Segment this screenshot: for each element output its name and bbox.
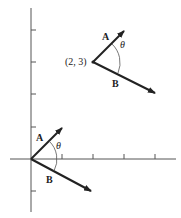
vector-a-label: A	[102, 31, 110, 42]
angle-arc	[112, 44, 120, 73]
point-marker	[91, 60, 94, 63]
vector-b-label: B	[112, 78, 119, 89]
translated-vector-pair: (2, 3) A B θ	[65, 31, 155, 93]
axes	[10, 8, 176, 212]
vector-diagram: A B θ (2, 3) A B θ	[0, 0, 181, 218]
point-label: (2, 3)	[65, 56, 87, 68]
theta-label: θ	[56, 140, 61, 151]
theta-label: θ	[120, 39, 125, 50]
vector-b-arrow	[31, 159, 91, 191]
vector-a-label: A	[36, 132, 44, 143]
vector-b-label: B	[46, 174, 53, 185]
vector-b-arrow	[93, 62, 155, 93]
y-ticks	[31, 30, 36, 191]
x-ticks	[62, 154, 155, 159]
